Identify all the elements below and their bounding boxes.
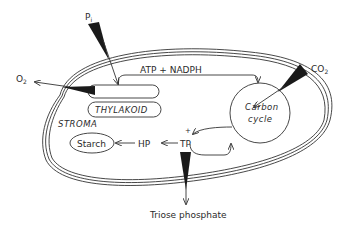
tp-plus-mark: +: [185, 127, 191, 135]
stroma-label: STROMA: [58, 119, 97, 129]
energy-label: ATP + NADPH: [140, 65, 202, 75]
svg-text:cycle: cycle: [248, 114, 272, 124]
co2-label: CO2: [311, 64, 328, 75]
pi-label: Pi: [85, 12, 92, 23]
thylakoid-membrane-upper: [88, 85, 159, 98]
hp-label: HP: [138, 139, 151, 149]
triose-wedge: [180, 152, 191, 190]
o2-export: O2: [16, 74, 95, 95]
o2-label: O2: [16, 74, 27, 85]
carbon-cycle: Carbon cycle: [230, 83, 290, 143]
triose-phosphate-export: Triose phosphate: [149, 152, 227, 220]
pi-import: Pi: [85, 12, 118, 84]
energy-bracket: [118, 75, 258, 84]
pi-wedge: [88, 22, 109, 60]
chloroplast-diagram: ATP + NADPH THYLAKOID STROMA Pi O2 Carbo…: [0, 0, 343, 232]
svg-text:Starch: Starch: [77, 139, 106, 149]
triose-phosphate-label: Triose phosphate: [149, 210, 227, 220]
cycle-to-tp-arrow: [193, 127, 232, 134]
starch-node: Starch: [70, 133, 114, 153]
tp-to-cycle-arrow: [190, 144, 231, 155]
thylakoid-label: THYLAKOID: [95, 105, 148, 115]
svg-text:Carbon: Carbon: [245, 102, 279, 112]
tp-label: TP: [179, 139, 191, 149]
